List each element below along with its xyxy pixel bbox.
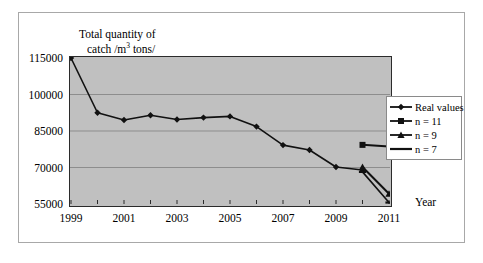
y-axis-title-line2: catch /m3 tons/ — [79, 41, 269, 56]
data-point-marker — [398, 104, 404, 110]
y-axis-title-line1: Total quantity of — [79, 28, 156, 40]
y-axis-title: Total quantity of catch /m3 tons/ — [79, 27, 269, 57]
series-line — [363, 172, 390, 203]
square-marker-icon — [389, 115, 413, 127]
series-n-7 — [359, 172, 390, 203]
y-axis-title-line2-post: tons/ — [130, 43, 155, 55]
y-axis-tick-label: 55000 — [7, 198, 63, 210]
legend-item-real-values: Real values — [389, 100, 458, 114]
legend-item-label: n = 9 — [413, 130, 437, 141]
x-axis-tick-label: 2009 — [325, 212, 348, 224]
line-marker-icon — [389, 143, 413, 155]
data-point-marker — [94, 110, 100, 116]
legend-item-label: n = 11 — [413, 116, 442, 127]
data-point-marker — [200, 114, 206, 120]
chart-screenshot: Total quantity of catch /m3 tons/ Year 5… — [0, 0, 483, 263]
series-real-values — [70, 57, 366, 173]
series-n-9 — [359, 163, 390, 196]
x-axis-tick-label: 1999 — [60, 212, 83, 224]
data-point-marker — [147, 112, 153, 118]
y-axis-tick-label: 100000 — [7, 89, 63, 101]
x-axis-tick-labels: 1999200120032005200720092011 — [0, 212, 483, 232]
legend-item-n-9: n = 9 — [389, 128, 458, 142]
y-axis-tick-label: 115000 — [7, 52, 63, 64]
x-axis-tick-label: 2005 — [219, 212, 242, 224]
x-axis-title: Year — [415, 196, 436, 208]
legend-item-n-7: n = 7 — [389, 142, 458, 156]
y-axis-tick-label: 85000 — [7, 125, 63, 137]
y-axis-tick-label: 70000 — [7, 162, 63, 174]
data-point-marker — [398, 118, 404, 124]
diamond-marker-icon — [389, 101, 413, 113]
data-point-marker — [174, 116, 180, 122]
x-axis-tick-label: 2003 — [166, 212, 189, 224]
triangle-marker-icon — [389, 129, 413, 141]
plot-svg — [70, 57, 390, 205]
legend-item-label: n = 7 — [413, 144, 437, 155]
data-point-marker — [359, 163, 366, 170]
series-line — [71, 58, 363, 170]
series-line — [363, 167, 390, 194]
x-axis-tick-label: 2001 — [113, 212, 136, 224]
legend-item-n-11: n = 11 — [389, 114, 458, 128]
plot-area — [69, 56, 392, 207]
chart-legend: Real valuesn = 11n = 9n = 7 — [386, 96, 462, 160]
data-point-marker — [227, 113, 233, 119]
x-axis-tick-label: 2007 — [272, 212, 295, 224]
data-point-marker — [360, 142, 366, 148]
legend-item-label: Real values — [413, 102, 464, 113]
x-axis-tick-label: 2011 — [378, 212, 401, 224]
data-point-marker — [121, 117, 127, 123]
y-axis-title-line2-pre: catch /m — [87, 43, 126, 55]
